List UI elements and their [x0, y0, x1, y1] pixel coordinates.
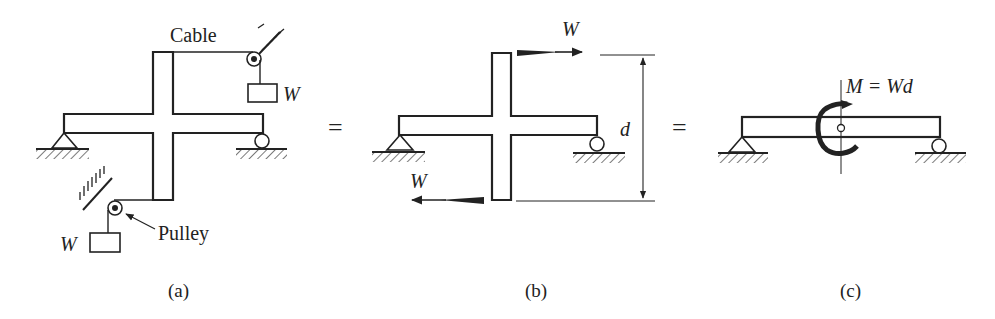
pin-support-icon	[372, 135, 425, 162]
weight-top-label: W	[283, 83, 302, 105]
pulley-pointer	[126, 214, 155, 229]
distance-label: d	[620, 118, 631, 140]
roller-support-icon	[915, 139, 966, 163]
statics-diagram: W Cable W Pulley (a) =	[0, 0, 995, 319]
pulley-top-icon	[247, 24, 284, 84]
dimension-line	[516, 55, 655, 201]
panel-c: M = Wd (c)	[718, 75, 966, 302]
weight-bottom	[90, 233, 120, 252]
caption-c: (c)	[840, 280, 861, 302]
cross-frame	[64, 52, 263, 200]
weight-top	[248, 84, 277, 102]
force-bottom-label: W	[410, 170, 429, 192]
pin-support-icon	[36, 133, 89, 159]
force-arrow-left-icon	[412, 197, 484, 204]
caption-a: (a)	[168, 280, 189, 302]
equals-sign-1: =	[328, 113, 343, 142]
pin-support-icon	[718, 137, 768, 163]
cross-frame	[399, 53, 597, 200]
roller-support-icon	[236, 134, 287, 159]
roller-support-icon	[573, 137, 625, 163]
caption-b: (b)	[525, 280, 547, 302]
pulley-label: Pulley	[158, 222, 209, 245]
pivot-point	[838, 125, 845, 132]
panel-a: W Cable W Pulley (a)	[36, 24, 302, 302]
cable-label: Cable	[170, 24, 217, 46]
weight-bottom-label: W	[60, 233, 79, 255]
moment-label: M = Wd	[845, 75, 914, 97]
panel-b: W W d (b)	[372, 18, 655, 302]
force-arrow-right-icon	[517, 50, 582, 56]
force-top-label: W	[562, 18, 581, 40]
equals-sign-2: =	[672, 113, 687, 142]
